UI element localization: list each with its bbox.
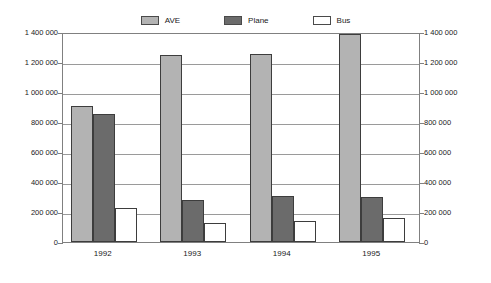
bar-chart: AVE Plane Bus 0200 000400 000600 000800 … [0,0,491,283]
legend-swatch-bus [313,16,331,25]
y-tick-mark-right [419,243,424,244]
x-axis-label-1993: 1993 [172,249,212,259]
bar-bus-1993 [204,223,226,242]
y-tick-label-left: 1 400 000 [25,29,58,37]
y-tick-label-right: 200 000 [424,209,451,217]
x-axis-categories: 1992199319941995 [62,249,420,261]
bar-plane-1993 [182,200,204,242]
y-tick-label-left: 1 000 000 [25,89,58,97]
y-tick-mark-right [419,63,424,64]
y-tick-label-left: 600 000 [31,149,58,157]
bar-bus-1992 [115,208,137,243]
legend-label-ave: AVE [165,16,180,25]
chart-legend: AVE Plane Bus [0,12,491,28]
y-tick-mark-left [58,243,63,244]
bar-ave-1995 [339,34,361,243]
bar-group [71,34,137,242]
bar-plane-1994 [272,196,294,242]
y-tick-mark-right [419,123,424,124]
legend-item-plane: Plane [224,16,268,25]
bar-series-container [63,34,419,242]
y-tick-label-right: 800 000 [424,119,451,127]
y-tick-label-right: 0 [424,239,428,247]
y-tick-mark-right [419,33,424,34]
x-axis-label-1992: 1992 [83,249,123,259]
y-tick-mark-right [419,153,424,154]
y-tick-label-right: 1 200 000 [424,59,457,67]
bar-bus-1994 [294,221,316,242]
bar-ave-1992 [71,106,93,243]
y-tick-label-left: 800 000 [31,119,58,127]
legend-swatch-plane [224,16,242,25]
y-tick-label-left: 1 200 000 [25,59,58,67]
bar-plane-1992 [93,114,115,242]
bar-group [339,34,405,242]
y-tick-label-right: 1 400 000 [424,29,457,37]
bar-group [160,34,226,242]
y-tick-label-right: 1 000 000 [424,89,457,97]
bar-ave-1993 [160,55,182,243]
y-axis-left: 0200 000400 000600 000800 0001 000 0001 … [2,33,58,243]
y-tick-label-left: 400 000 [31,179,58,187]
bar-plane-1995 [361,197,383,242]
plot-area [62,33,420,243]
x-axis-label-1995: 1995 [351,249,391,259]
legend-item-ave: AVE [141,16,180,25]
y-tick-mark-right [419,213,424,214]
bar-bus-1995 [383,218,405,242]
legend-item-bus: Bus [313,16,351,25]
legend-swatch-ave [141,16,159,25]
y-tick-label-right: 600 000 [424,149,451,157]
y-axis-right: 0200 000400 000600 000800 0001 000 0001 … [424,33,480,243]
legend-label-plane: Plane [248,16,268,25]
y-tick-label-left: 200 000 [31,209,58,217]
y-tick-mark-right [419,183,424,184]
bar-group [250,34,316,242]
y-tick-mark-right [419,93,424,94]
x-axis-label-1994: 1994 [262,249,302,259]
y-tick-label-right: 400 000 [424,179,451,187]
bar-ave-1994 [250,54,272,242]
legend-label-bus: Bus [337,16,351,25]
